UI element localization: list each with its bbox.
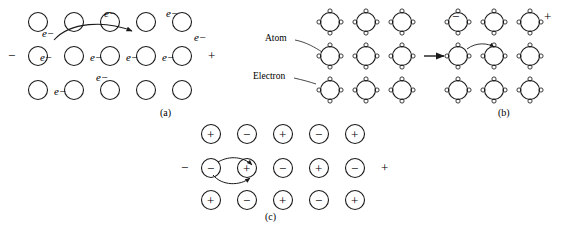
annotation-electron: Electron <box>253 72 285 82</box>
panel-b-right-hop-arrow <box>467 44 494 49</box>
ion-charge: − <box>315 128 322 141</box>
panel-c-minus-sign: − <box>181 161 188 174</box>
ion-charge: + <box>207 194 214 207</box>
panel-c-plus-sign: + <box>381 161 388 174</box>
ion-charge: − <box>279 162 286 175</box>
ion-charge: − <box>315 194 322 207</box>
ion-charge: + <box>315 162 322 175</box>
ion-charge: + <box>279 194 286 207</box>
caption-c: (c) <box>265 212 276 222</box>
electron-label: e− <box>42 28 54 39</box>
electron-label: e− <box>126 52 138 63</box>
ion-charge: − <box>207 162 214 175</box>
panel-b-right-atoms <box>449 13 540 100</box>
panel-b-minus-sign: − <box>452 10 459 23</box>
electron-label: e− <box>104 8 116 19</box>
electron-label: e− <box>90 52 102 63</box>
panel-a-minus-sign: − <box>8 49 15 62</box>
panel-b-left-electrons <box>317 9 415 103</box>
ion-charge: + <box>351 194 358 207</box>
ion-charge: − <box>243 194 250 207</box>
panel-a-plus-sign: + <box>208 49 215 62</box>
ion-charge: + <box>351 128 358 141</box>
ion-charge: − <box>351 162 358 175</box>
panel-b-right-electrons <box>445 9 543 103</box>
ion-charge: + <box>243 162 250 175</box>
panel-b-left-atoms <box>321 13 412 100</box>
panel-b-plus-sign: + <box>544 10 551 23</box>
electron-label: e− <box>194 32 206 43</box>
annotation-atom: Atom <box>265 34 287 44</box>
figure-root: e− e− e− e− e− e− e− e− e− e− − + Atom E… <box>0 0 563 229</box>
electron-label: e− <box>162 52 174 63</box>
ion-charge: + <box>207 128 214 141</box>
panel-b-leader-lines <box>294 40 322 84</box>
electron-label: e− <box>96 72 108 83</box>
caption-b: (b) <box>498 108 510 118</box>
caption-a: (a) <box>160 108 171 118</box>
electron-label: e− <box>54 86 66 97</box>
ion-charge: + <box>279 128 286 141</box>
electron-label: e− <box>40 52 52 63</box>
electron-label: e− <box>166 8 178 19</box>
ion-charge: − <box>243 128 250 141</box>
